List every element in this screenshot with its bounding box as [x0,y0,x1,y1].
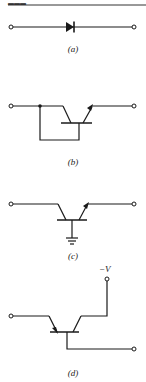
terminal-right [132,202,136,206]
figure-label-d: (d) [0,368,146,378]
emitter-arrow-icon [52,327,58,334]
terminal-left [9,104,13,108]
diagram-b-transistor [9,104,136,140]
terminal-left [9,202,13,206]
terminal-right [132,25,136,29]
terminal-right [132,347,136,351]
figure-label-c: (c) [0,251,146,261]
figure-label-b: (b) [0,157,146,167]
diagram-a-diode [9,22,136,33]
terminal-left [9,25,13,29]
terminal-right [132,104,136,108]
diode-icon [66,22,74,32]
diagram-c-transistor [9,202,136,244]
diagram-d-transistor [9,277,136,351]
terminal-supply [105,277,109,281]
circuit-diagrams [0,0,146,382]
emitter-arrow-icon [83,202,89,209]
terminal-left [9,314,13,318]
junction-dot [38,104,42,108]
supply-voltage-label: −V [99,264,111,274]
figure-label-a: (a) [0,44,146,54]
